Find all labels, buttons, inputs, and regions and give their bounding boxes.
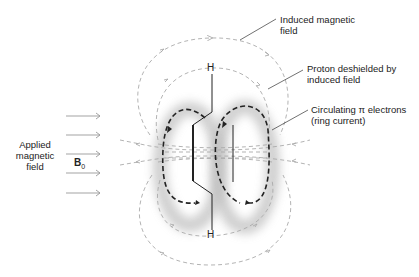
applied-arrow bbox=[66, 113, 100, 119]
applied-field-label-line1: Applied bbox=[12, 139, 58, 150]
induced-field-label-line2: field bbox=[280, 25, 355, 36]
proton-deshielded-label-line1: Proton deshielded by bbox=[307, 63, 396, 74]
leader-induced-field bbox=[240, 19, 276, 40]
leader-ring-current bbox=[272, 110, 308, 130]
ring-current-label: Circulating π electrons (ring current) bbox=[311, 104, 406, 126]
applied-arrow bbox=[66, 190, 100, 196]
proton-deshielded-label: Proton deshielded by induced field bbox=[307, 63, 396, 85]
bond-lower-diag bbox=[193, 181, 212, 194]
induced-field-label-line1: Induced magnetic bbox=[280, 14, 355, 25]
applied-field-label-line2: magnetic bbox=[12, 150, 58, 161]
ring-current-label-line2: (ring current) bbox=[311, 115, 406, 126]
applied-field-label-line3: field bbox=[12, 161, 58, 172]
hydrogen-top-label: H bbox=[207, 62, 214, 73]
b0-subscript: 0 bbox=[81, 163, 85, 170]
b0-symbol: B0 bbox=[74, 157, 85, 170]
induced-field-label: Induced magnetic field bbox=[280, 14, 355, 36]
proton-deshielded-label-line2: induced field bbox=[307, 74, 396, 85]
leader-proton-deshielded bbox=[268, 70, 303, 89]
applied-field-arrows bbox=[66, 113, 100, 196]
ring-current-label-line1: Circulating π electrons bbox=[311, 104, 406, 115]
applied-arrow bbox=[66, 132, 100, 138]
hydrogen-bottom-label: H bbox=[207, 229, 214, 240]
applied-field-label: Applied magnetic field bbox=[12, 139, 58, 172]
applied-arrow bbox=[66, 170, 100, 176]
